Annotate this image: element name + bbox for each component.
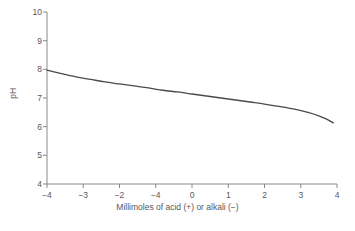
axis-lines — [47, 12, 337, 184]
y-tick-label: 4 — [18, 180, 42, 189]
x-tick-label: 3 — [298, 191, 303, 200]
x-tick-label: −4 — [42, 191, 52, 200]
x-tick-label: 4 — [335, 191, 340, 200]
ph-curve-line — [47, 70, 333, 123]
x-tick-label: −3 — [78, 191, 88, 200]
x-tick-label: 2 — [262, 191, 267, 200]
x-tick-label: 1 — [226, 191, 231, 200]
x-tick-label: 0 — [190, 191, 195, 200]
x-tick-label: −4 — [151, 191, 161, 200]
y-tick-label: 7 — [18, 94, 42, 103]
x-axis-title: Millimoles of acid (+) or alkali (−) — [0, 203, 355, 212]
y-tick-label: 8 — [18, 65, 42, 74]
y-tick-label: 10 — [18, 8, 42, 17]
y-tick-label: 6 — [18, 122, 42, 131]
ph-titration-chart: 45678910 −4−3−2−401234 pH Millimoles of … — [0, 0, 355, 231]
y-tick-label: 9 — [18, 36, 42, 45]
y-tick-label: 5 — [18, 151, 42, 160]
y-axis-title: pH — [9, 88, 18, 99]
y-axis-ticks — [43, 12, 47, 184]
x-tick-label: −2 — [115, 191, 125, 200]
x-axis-ticks — [47, 184, 337, 188]
